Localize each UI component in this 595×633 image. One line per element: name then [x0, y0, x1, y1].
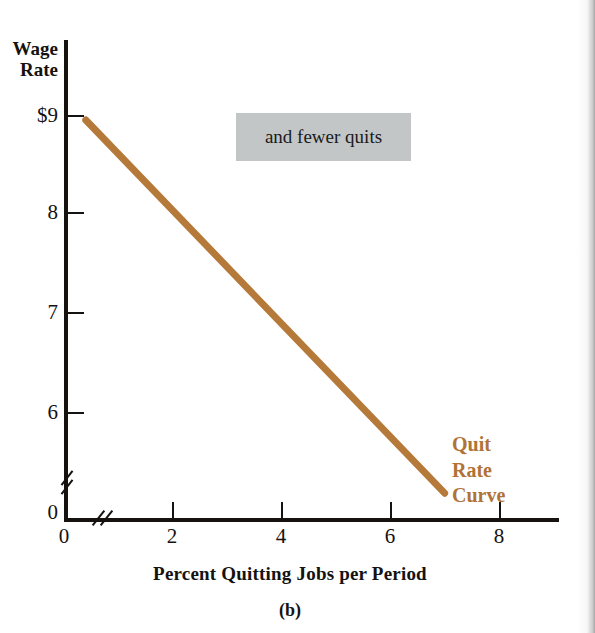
x-tick-label-6: 6 — [370, 524, 410, 549]
quit-rate-curve-label: Quit Rate Curve — [452, 432, 505, 509]
y-axis-break-mark — [56, 472, 78, 498]
page-edge-shadow — [577, 0, 595, 633]
x-tick-label-2: 2 — [152, 524, 192, 549]
y-tick-label-7: 7 — [6, 300, 58, 325]
x-axis-line — [64, 518, 559, 522]
x-tick-4 — [281, 502, 283, 518]
figure-page: Wage Rate $9 8 7 6 0 0 2 4 6 8 — [0, 0, 595, 633]
y-tick-9 — [68, 115, 84, 117]
x-tick-label-0: 0 — [44, 524, 84, 549]
y-tick-8 — [68, 212, 84, 214]
x-tick-label-4: 4 — [261, 524, 301, 549]
y-tick-label-6: 6 — [6, 400, 58, 425]
x-tick-label-8: 8 — [479, 524, 519, 549]
curve-label-line-2: Rate — [452, 458, 505, 484]
curve-label-line-1: Quit — [452, 432, 505, 458]
curve-label-line-3: Curve — [452, 483, 505, 509]
chart-plot-area: Wage Rate $9 8 7 6 0 0 2 4 6 8 — [0, 0, 595, 633]
figure-caption: (b) — [0, 600, 580, 621]
y-axis-title-line-1: Wage — [2, 38, 58, 59]
x-axis-title: Percent Quitting Jobs per Period — [0, 563, 580, 585]
y-tick-label-8: 8 — [6, 200, 58, 225]
x-tick-0 — [64, 502, 66, 518]
y-axis-title-line-2: Rate — [2, 59, 58, 80]
x-axis-break-mark — [86, 507, 112, 529]
y-tick-label-0: 0 — [6, 500, 58, 525]
quit-rate-curve-line — [86, 120, 445, 493]
y-tick-label-9: $9 — [6, 103, 58, 128]
y-axis-title: Wage Rate — [2, 38, 58, 81]
y-axis-line — [64, 40, 68, 522]
x-tick-2 — [172, 502, 174, 518]
y-tick-7 — [68, 312, 84, 314]
annotation-box-fewer-quits: and fewer quits — [236, 113, 411, 161]
y-tick-6 — [68, 412, 84, 414]
x-tick-6 — [390, 502, 392, 518]
annotation-text: and fewer quits — [265, 126, 382, 148]
